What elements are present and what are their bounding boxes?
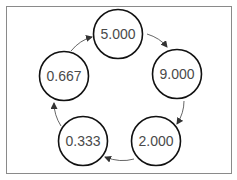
- node-label: 2.000: [138, 133, 173, 149]
- node-label: 5.000: [100, 26, 135, 42]
- node-9000: 9.000: [153, 50, 202, 99]
- node-label: 0.333: [65, 133, 100, 149]
- arrow-0333-to-0667: [54, 103, 61, 126]
- cycle-diagram: 5.000 9.000 2.000 0.333 0.667: [0, 0, 237, 180]
- node-2000: 2.000: [132, 117, 181, 166]
- arrow-9-to-2: [177, 101, 184, 124]
- arrow-0667-to-5: [71, 37, 92, 51]
- node-label: 0.667: [46, 68, 81, 84]
- node-label: 9.000: [159, 66, 194, 82]
- arrow-5-to-9: [147, 34, 167, 47]
- arrow-2-to-0333: [105, 157, 134, 161]
- node-0667: 0.667: [40, 52, 89, 101]
- node-0333: 0.333: [59, 117, 108, 166]
- node-5000: 5.000: [94, 10, 143, 59]
